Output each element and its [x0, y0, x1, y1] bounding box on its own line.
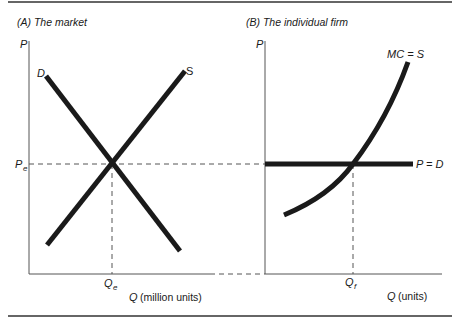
quantity-equilibrium-label: Q: [104, 277, 113, 289]
marginal-cost-label: MC = S: [387, 48, 425, 60]
panel-a-x-axis-unit: (million units): [140, 291, 202, 303]
demand-label: D: [37, 67, 45, 79]
quantity-firm-label: Q: [345, 276, 354, 288]
panel-a-market: [29, 41, 265, 274]
panel-b-x-axis-var: Q: [387, 290, 396, 302]
panel-b-title: (B) The individual firm: [246, 16, 348, 28]
price-demand-label: P = D: [416, 158, 443, 170]
price-equilibrium-subscript: e: [23, 164, 28, 173]
panel-a-title: (A) The market: [17, 16, 88, 28]
quantity-firm-subscript: f: [354, 282, 357, 291]
supply-curve: [47, 71, 185, 245]
panel-a-y-axis-label: P: [20, 38, 28, 50]
figure-canvas: (A) The market P D S P e Q e Q (million …: [0, 0, 460, 321]
quantity-equilibrium-subscript: e: [113, 283, 118, 292]
panel-b-x-axis-unit: (units): [398, 290, 427, 302]
panel-a-x-axis-var: Q: [129, 291, 138, 303]
price-equilibrium-label: P: [15, 158, 23, 170]
supply-label: S: [186, 65, 193, 77]
panel-b-y-axis-label: P: [256, 38, 264, 50]
marginal-cost-curve: [284, 62, 408, 215]
